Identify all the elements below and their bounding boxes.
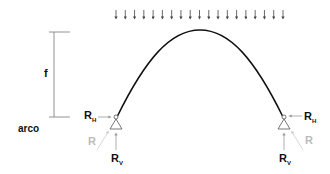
left-reactions (97, 117, 116, 150)
left-resultant-label: R (88, 136, 96, 147)
left-vertical-reaction-label: RV (111, 153, 123, 166)
distributed-load (116, 10, 283, 18)
right-vertical-reaction-label: RV (279, 153, 291, 166)
rise-label: f (44, 68, 48, 79)
left-support (110, 115, 122, 129)
right-resultant-label: R (305, 135, 313, 146)
right-support (278, 115, 290, 129)
arch-curve (117, 30, 283, 117)
rise-dimension (49, 32, 70, 117)
left-horizontal-reaction-label: RH (84, 110, 96, 123)
right-horizontal-reaction-label: RH (304, 111, 316, 124)
arch-diagram: f arco RH R RV RH R RV (0, 0, 330, 174)
arch-drawing (0, 0, 330, 174)
structure-type-label: arco (18, 124, 39, 134)
right-reactions (284, 116, 303, 150)
